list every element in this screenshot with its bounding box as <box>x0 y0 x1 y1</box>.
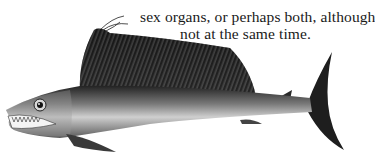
dorsal-filaments <box>100 16 128 31</box>
pelvic-fin <box>240 120 262 125</box>
pectoral-fin <box>66 134 116 152</box>
tail-fin <box>308 52 344 150</box>
